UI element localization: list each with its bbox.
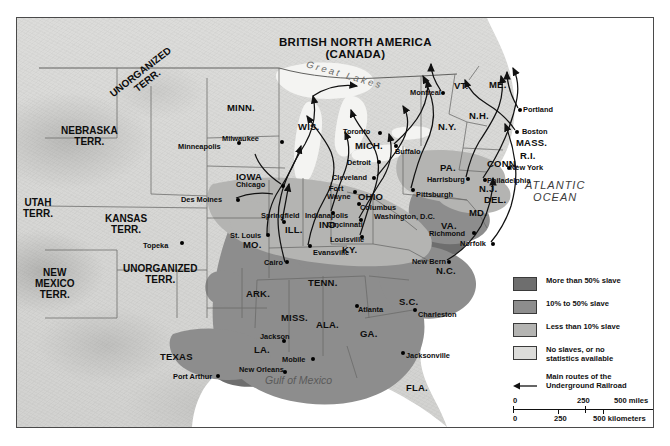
- scale-km-labels: 0 250 500 kilometers: [513, 414, 654, 424]
- city-label-atlanta: Atlanta: [358, 306, 383, 314]
- state-label-ill: ILL.: [285, 225, 303, 235]
- country-title-line1: BRITISH NORTH AMERICA: [279, 36, 432, 48]
- atlantic-ocean-label: ATLANTICOCEAN: [525, 180, 585, 204]
- city-dot-toronto: [378, 131, 382, 135]
- legend-route-text: Main routes of the Underground Railroad: [546, 372, 627, 391]
- state-label-vt: VT.: [454, 81, 468, 91]
- city-dot-jacksonville: [401, 351, 405, 355]
- city-label-portarthur: Port Arthur: [173, 373, 212, 381]
- legend-10-to-50-text: 10% to 50% slave: [546, 299, 609, 308]
- state-label-la: LA.: [254, 345, 270, 355]
- city-dot-newyork: [507, 166, 511, 170]
- map-frame: BRITISH NORTH AMERICA(CANADA)ATLANTICOCE…: [16, 17, 654, 428]
- city-label-mobile: Mobile: [282, 356, 305, 364]
- legend-item-list: More than 50% slave10% to 50% slaveLess …: [513, 276, 654, 364]
- city-dot-springfield: [282, 220, 286, 224]
- country-title-line2: (CANADA): [279, 48, 432, 60]
- legend-more-than-50-text: More than 50% slave: [546, 276, 621, 285]
- city-dot-atlanta: [355, 304, 359, 308]
- scale-ruler: [513, 406, 654, 413]
- city-label-boston: Boston: [522, 128, 547, 136]
- state-label-ny: N.Y.: [438, 122, 456, 132]
- state-label-mich: MICH.: [355, 141, 383, 151]
- city-dot-fort: [353, 190, 357, 194]
- route-arrow-icon: [513, 376, 537, 394]
- state-label-mass: MASS.: [516, 138, 547, 148]
- legend-no-slaves: No slaves, or nostatistics available: [513, 345, 654, 364]
- city-label-montreal: Montreal: [410, 89, 441, 97]
- state-label-ri: R.I.: [520, 151, 536, 161]
- state-label-md: MD.: [469, 208, 487, 218]
- city-dot-cleveland: [372, 176, 376, 180]
- city-label-minneapolis: Minneapolis: [178, 143, 221, 151]
- gulf-of-mexico-label: Gulf of Mexico: [265, 375, 332, 386]
- city-dot-topeka: [180, 241, 184, 245]
- city-dot-portland: [518, 108, 522, 112]
- scale-miles-zero: 0: [513, 396, 517, 405]
- scale-km-zero: 0: [513, 414, 517, 423]
- city-dot-cincinnati: [359, 218, 363, 222]
- city-dot-boston: [515, 130, 519, 134]
- state-label-ala: ALA.: [316, 320, 339, 330]
- legend-less-than-10: Less than 10% slave: [513, 322, 654, 337]
- legend-route-line1: Main routes of the: [546, 372, 627, 381]
- city-label-newyork: New York: [510, 164, 543, 172]
- city-dot-newbern: [447, 260, 451, 264]
- city-dot-louisville: [360, 235, 364, 239]
- city-dot-harrisburg: [466, 177, 470, 181]
- state-label-wis: WIS.: [298, 122, 319, 132]
- city-dot-neworleans: [283, 370, 287, 374]
- scale-km-mid: 250: [554, 414, 567, 423]
- city-label-evansville: Evansville: [313, 249, 349, 257]
- city-dot-desmoines: [236, 198, 240, 202]
- scale-miles-labels: 0 250 500 miles: [513, 396, 654, 406]
- city-label-buffalo: Buffalo: [395, 148, 420, 156]
- state-label-ohio: OHIO: [358, 192, 383, 202]
- legend-route-row: Main routes of the Underground Railroad: [513, 372, 654, 394]
- city-dot-evansville: [308, 244, 312, 248]
- city-label-newbern: New Bern: [412, 258, 446, 266]
- state-label-minn: MINN.: [227, 103, 255, 113]
- city-label-stlouis: St. Louis: [230, 232, 261, 240]
- city-dot-norfolk: [491, 242, 495, 246]
- city-dot-portarthur: [216, 374, 220, 378]
- city-dot-cairo: [285, 260, 289, 264]
- state-label-sc: S.C.: [399, 297, 418, 307]
- city-dot-milwaukee: [280, 140, 284, 144]
- map-legend: More than 50% slave10% to 50% slaveLess …: [513, 276, 654, 402]
- legend-more-than-50-swatch: [513, 277, 537, 291]
- legend-less-than-10-text: Less than 10% slave: [546, 322, 620, 331]
- scale-km-max: 500 kilometers: [593, 414, 646, 423]
- city-dot-richmond: [472, 231, 476, 235]
- city-dot-philadelphia: [483, 178, 487, 182]
- city-label-columbus: Columbus: [360, 204, 396, 212]
- state-label-mo: MO.: [243, 240, 262, 250]
- city-dot-charleston: [413, 308, 417, 312]
- nebraska-terr: NEBRASKATERR.: [61, 126, 118, 148]
- city-label-springfield: Springfield: [261, 212, 300, 220]
- legend-no-slaves-swatch: [513, 346, 537, 360]
- state-label-nc: N.C.: [436, 266, 456, 276]
- city-label-milwaukee: Milwaukee: [222, 135, 259, 143]
- map-page: BRITISH NORTH AMERICA(CANADA)ATLANTICOCE…: [0, 0, 670, 446]
- utah-terr: UTAHTERR.: [23, 198, 53, 220]
- country-title: BRITISH NORTH AMERICA(CANADA): [279, 36, 432, 61]
- legend-no-slaves-text: No slaves, or nostatistics available: [546, 345, 613, 364]
- city-label-portland: Portland: [523, 106, 553, 114]
- state-label-nh: N.H.: [469, 111, 489, 121]
- city-label-desmoines: Des Moines: [181, 196, 222, 204]
- state-label-me: ME.: [489, 80, 507, 90]
- city-dot-stlouis: [266, 233, 270, 237]
- city-label-philadelphia: Philadelphia: [487, 177, 531, 185]
- kansas-terr: KANSASTERR.: [105, 214, 147, 236]
- legend-route-line2: Underground Railroad: [546, 381, 627, 390]
- city-label-pittsburgh: Pittsburgh: [416, 191, 453, 199]
- city-label-norfolk: Norfolk: [460, 240, 486, 248]
- city-label-toronto: Toronto: [343, 128, 370, 136]
- city-label-harrisburg: Harrisburg: [427, 176, 465, 184]
- city-label-louisville: Louisville: [330, 236, 364, 244]
- state-label-ark: ARK.: [246, 289, 270, 299]
- scale-bar: 0 250 500 miles 0 250 500 kilometers: [513, 396, 654, 424]
- unorganized-terr-south: UNORGANIZEDTERR.: [123, 264, 197, 286]
- city-dot-montreal: [441, 91, 445, 95]
